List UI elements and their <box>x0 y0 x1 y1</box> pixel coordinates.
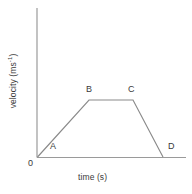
point-label-d: D <box>168 142 175 151</box>
y-axis-label-main: velocity (ms <box>8 62 18 108</box>
point-label-a: A <box>50 142 56 151</box>
origin-label: 0 <box>28 159 33 168</box>
point-label-b: B <box>86 85 92 94</box>
x-axis-label: time (s) <box>78 172 107 182</box>
velocity-time-graph: velocity (ms-1) time (s) 0 A B C D <box>0 0 192 194</box>
velocity-time-trace <box>38 100 164 157</box>
y-axis-label-superscript: -1 <box>6 57 13 63</box>
y-axis-label-close: ) <box>8 54 18 57</box>
y-axis-label: velocity (ms-1) <box>8 35 18 127</box>
point-label-c: C <box>128 85 135 94</box>
